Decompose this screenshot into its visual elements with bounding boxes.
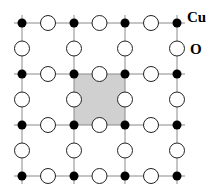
oxygen-atom (170, 41, 185, 56)
oxygen-atom (144, 169, 159, 184)
copper-atom (18, 172, 27, 181)
oxygen-atom (15, 92, 30, 107)
copper-atom (18, 121, 27, 130)
oxygen-atom (144, 16, 159, 31)
copper-atom (70, 19, 79, 28)
copper-atom (121, 19, 130, 28)
copper-atom (173, 70, 182, 79)
oxygen-atom (41, 67, 56, 82)
oxygen-atom (118, 41, 133, 56)
copper-atom (173, 121, 182, 130)
oxygen-atom (92, 16, 107, 31)
copper-atom (70, 172, 79, 181)
oxygen-atom (15, 41, 30, 56)
copper-atom (121, 70, 130, 79)
oxygen-atom (15, 143, 30, 158)
copper-atom (173, 19, 182, 28)
copper-atom (18, 70, 27, 79)
cuo2-lattice-diagram: Cu O (0, 0, 213, 190)
copper-atom (173, 172, 182, 181)
copper-atom (70, 121, 79, 130)
copper-atom (121, 172, 130, 181)
oxygen-atom (67, 143, 82, 158)
oxygen-atom (118, 143, 133, 158)
oxygen-atom (92, 169, 107, 184)
oxygen-atom (41, 169, 56, 184)
o-label: O (190, 41, 202, 57)
oxygen-atom (92, 118, 107, 133)
oxygen-atom (67, 41, 82, 56)
copper-atom (121, 121, 130, 130)
oxygen-atom (67, 92, 82, 107)
oxygen-atom (118, 92, 133, 107)
oxygen-atom (41, 16, 56, 31)
oxygen-atom (92, 67, 107, 82)
cu-label: Cu (187, 9, 206, 25)
oxygen-atom (144, 118, 159, 133)
oxygen-atom (41, 118, 56, 133)
oxygen-atom (144, 67, 159, 82)
oxygen-atom (170, 92, 185, 107)
copper-atom (70, 70, 79, 79)
copper-atom (18, 19, 27, 28)
oxygen-atom (170, 143, 185, 158)
